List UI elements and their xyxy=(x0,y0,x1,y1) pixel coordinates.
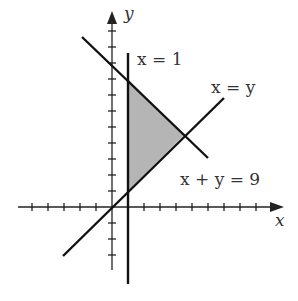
y-axis-label: y xyxy=(123,3,134,23)
x-axis-label: x xyxy=(275,210,285,230)
shaded-region xyxy=(128,79,184,191)
label-x-equals-y: x = y xyxy=(211,77,256,97)
y-axis xyxy=(108,16,116,270)
graph-canvas: y x x = 1 x = y x + y = 9 xyxy=(0,0,298,301)
x-axis xyxy=(18,203,280,211)
label-x-plus-y-equals-9: x + y = 9 xyxy=(180,169,260,189)
y-axis-arrow-icon xyxy=(107,11,117,24)
label-x-equals-1: x = 1 xyxy=(137,49,182,69)
diagram: y x x = 1 x = y x + y = 9 xyxy=(0,0,298,301)
